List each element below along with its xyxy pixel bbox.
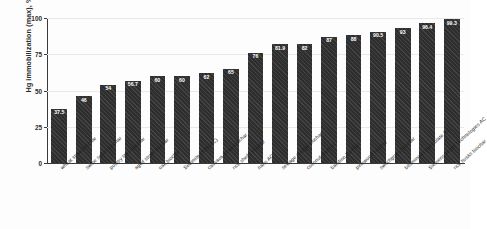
y-tick-label: 50 [20,87,42,94]
bar-slot[interactable]: 88 [346,18,362,163]
bar-value-label: 96.4 [422,25,432,30]
bar-value-label: 37.5 [54,110,64,115]
y-tick-label: 75 [20,51,42,58]
bar-value-label: 87 [326,38,332,43]
y-tick-mark [44,18,47,19]
bar[interactable]: 37.5 [51,109,67,163]
bar-value-label: 60 [154,78,160,83]
bar-value-label: 65 [228,70,234,75]
bar-value-label: 99.3 [447,21,457,26]
y-tick-mark [44,54,47,55]
bar-value-label: 62 [204,75,210,80]
bar-value-label: 46 [81,98,87,103]
bar-value-label: 54 [105,86,111,91]
bar-slot[interactable]: 60 [174,18,190,163]
bar-value-label: 90.5 [373,33,383,38]
bar-value-label: 56.7 [128,82,138,87]
bar-value-label: 76 [253,54,259,59]
bar-value-label: 60 [179,78,185,83]
bar-slot[interactable]: 81.9 [272,18,288,163]
bar-value-label: 82 [302,46,308,51]
x-axis-category-labels: wheat straw biocharswine solids biocharp… [47,164,464,229]
y-tick-label: 0 [20,160,42,167]
bar-slot[interactable]: 37.5 [51,18,67,163]
bar-value-label: 81.9 [275,46,285,51]
y-tick-label: 25 [20,123,42,130]
bar-value-label: 93 [400,30,406,35]
y-tick-label: 100 [20,15,42,22]
y-tick-mark [44,127,47,128]
y-tick-mark [44,91,47,92]
bar[interactable]: 81.9 [272,44,288,163]
bar-value-label: 88 [351,37,357,42]
